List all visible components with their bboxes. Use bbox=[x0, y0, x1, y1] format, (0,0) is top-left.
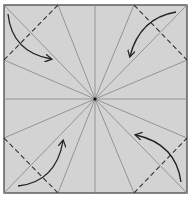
origami-diagram bbox=[0, 0, 192, 202]
crease-pattern-canvas bbox=[0, 0, 192, 202]
center-point bbox=[93, 97, 96, 100]
